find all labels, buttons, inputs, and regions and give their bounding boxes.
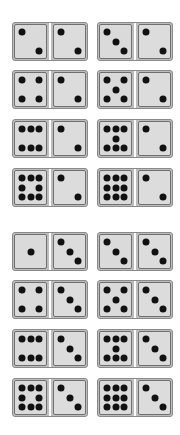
domino-divider xyxy=(49,330,51,367)
domino-tile-5-3 xyxy=(97,280,173,319)
domino-half-left xyxy=(99,24,132,59)
pip-dot xyxy=(160,403,167,410)
pip-dot xyxy=(18,403,25,410)
pip-dot xyxy=(36,336,43,343)
domino-divider xyxy=(49,233,51,270)
domino-half-left xyxy=(99,282,132,317)
pip-dot xyxy=(75,95,82,102)
pip-dot xyxy=(142,239,149,246)
domino-half-right xyxy=(138,380,171,415)
pip-dot xyxy=(36,385,43,392)
pip-dot xyxy=(75,47,82,54)
pip-dot xyxy=(112,135,119,142)
pip-dot xyxy=(18,95,25,102)
domino-tile-2-2 xyxy=(12,22,88,61)
pip-dot xyxy=(121,403,128,410)
pip-dot xyxy=(27,336,34,343)
pip-dot xyxy=(18,287,25,294)
pip-dot xyxy=(160,95,167,102)
pip-dot xyxy=(121,175,128,182)
pip-dot xyxy=(36,354,43,361)
domino-half-left xyxy=(14,380,47,415)
pip-dot xyxy=(66,248,73,255)
domino-tile-3-2 xyxy=(97,22,173,61)
domino-divider xyxy=(49,23,51,60)
domino-tile-7-2 xyxy=(97,119,173,158)
pip-dot xyxy=(142,77,149,84)
pip-dot xyxy=(142,336,149,343)
pip-dot xyxy=(112,184,119,191)
domino-half-right xyxy=(53,282,86,317)
pip-dot xyxy=(103,305,110,312)
domino-divider xyxy=(134,330,136,367)
pip-dot xyxy=(27,126,34,133)
domino-tile-7-3 xyxy=(97,329,173,368)
pip-dot xyxy=(57,77,64,84)
pip-dot xyxy=(36,144,43,151)
pip-dot xyxy=(27,175,34,182)
domino-divider xyxy=(49,169,51,206)
pip-dot xyxy=(112,345,119,352)
pip-dot xyxy=(66,296,73,303)
pip-dot xyxy=(160,257,167,264)
domino-divider xyxy=(134,120,136,157)
pip-dot xyxy=(151,296,158,303)
pip-dot xyxy=(112,336,119,343)
domino-tile-6-2 xyxy=(12,119,88,158)
pip-dot xyxy=(142,385,149,392)
pip-dot xyxy=(142,175,149,182)
pip-dot xyxy=(142,29,149,36)
domino-tile-8-3 xyxy=(12,378,88,417)
pip-dot xyxy=(103,336,110,343)
pip-dot xyxy=(18,175,25,182)
domino-half-right xyxy=(138,234,171,269)
pip-dot xyxy=(112,144,119,151)
pip-dot xyxy=(142,287,149,294)
pip-dot xyxy=(160,144,167,151)
pip-dot xyxy=(160,305,167,312)
pip-dot xyxy=(57,29,64,36)
pip-dot xyxy=(121,47,128,54)
pip-dot xyxy=(57,287,64,294)
domino-half-left xyxy=(14,72,47,107)
pip-dot xyxy=(103,287,110,294)
domino-divider xyxy=(49,379,51,416)
pip-dot xyxy=(112,126,119,133)
pip-dot xyxy=(103,239,110,246)
pip-dot xyxy=(75,257,82,264)
pip-dot xyxy=(112,38,119,45)
domino-divider xyxy=(49,120,51,157)
pip-dot xyxy=(27,354,34,361)
domino-half-right xyxy=(138,331,171,366)
pip-dot xyxy=(103,193,110,200)
pip-dot xyxy=(57,336,64,343)
domino-half-left xyxy=(14,121,47,156)
pip-dot xyxy=(18,305,25,312)
pip-dot xyxy=(36,126,43,133)
pip-dot xyxy=(36,184,43,191)
domino-divider xyxy=(134,169,136,206)
pip-dot xyxy=(18,184,25,191)
pip-dot xyxy=(27,385,34,392)
pip-dot xyxy=(75,354,82,361)
pip-dot xyxy=(112,86,119,93)
pip-dot xyxy=(112,193,119,200)
domino-half-right xyxy=(138,170,171,205)
domino-half-left xyxy=(99,380,132,415)
pip-dot xyxy=(160,47,167,54)
pip-dot xyxy=(57,126,64,133)
pip-dot xyxy=(75,403,82,410)
domino-half-right xyxy=(53,170,86,205)
pip-dot xyxy=(121,257,128,264)
domino-tile-4-2 xyxy=(12,70,88,109)
pip-dot xyxy=(27,193,34,200)
domino-divider xyxy=(49,281,51,318)
pip-dot xyxy=(121,126,128,133)
pip-dot xyxy=(66,394,73,401)
pip-dot xyxy=(36,394,43,401)
domino-half-right xyxy=(53,331,86,366)
domino-half-right xyxy=(138,72,171,107)
pip-dot xyxy=(36,77,43,84)
pip-dot xyxy=(18,193,25,200)
pip-dot xyxy=(75,144,82,151)
